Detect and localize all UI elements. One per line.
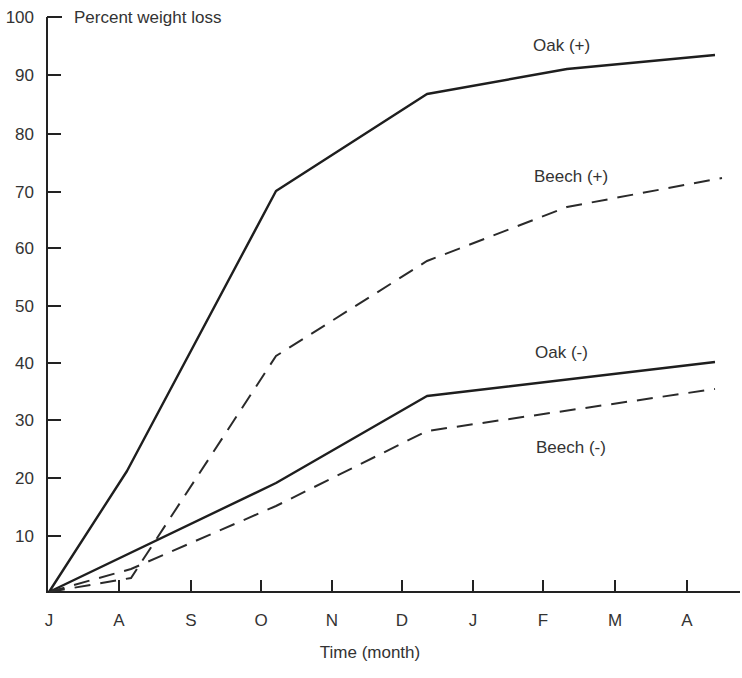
- x-tick-label: A: [113, 611, 125, 630]
- series-beech-minus: [49, 389, 715, 592]
- y-tick-label: 10: [15, 527, 34, 546]
- x-tick-label: S: [185, 611, 196, 630]
- series-oak-plus: [49, 55, 715, 592]
- series-label-beech-minus: Beech (-): [536, 438, 606, 457]
- y-tick-label: 30: [15, 411, 34, 430]
- series-beech-plus: [49, 178, 722, 592]
- x-tick-label: N: [326, 611, 338, 630]
- series-oak-minus: [49, 362, 715, 592]
- x-tick-label: M: [608, 611, 622, 630]
- x-tick-label: D: [396, 611, 408, 630]
- y-tick-label: 90: [15, 66, 34, 85]
- line-chart: 100 90 80 70 60 50 40 30 20 10 Percent w…: [0, 0, 742, 678]
- y-axis-title: Percent weight loss: [74, 8, 221, 27]
- y-axis: [47, 17, 62, 593]
- x-tick-label: F: [538, 611, 548, 630]
- series-label-oak-minus: Oak (-): [535, 343, 588, 362]
- x-axis-title: Time (month): [320, 643, 420, 662]
- series-label-oak-plus: Oak (+): [533, 36, 590, 55]
- y-tick-labels: 100 90 80 70 60 50 40 30 20 10: [6, 8, 34, 546]
- y-tick-label: 80: [15, 125, 34, 144]
- y-tick-label: 70: [15, 183, 34, 202]
- x-tick-label: J: [469, 611, 478, 630]
- x-tick-label: A: [681, 611, 693, 630]
- y-tick-label: 60: [15, 239, 34, 258]
- x-tick-label: O: [254, 611, 267, 630]
- y-tick-label: 50: [15, 297, 34, 316]
- series-label-beech-plus: Beech (+): [534, 167, 608, 186]
- y-tick-label: 40: [15, 354, 34, 373]
- x-tick-labels: J A S O N D J F M A: [45, 611, 694, 630]
- x-tick-label: J: [45, 611, 54, 630]
- x-axis: [46, 580, 740, 592]
- y-tick-label: 100: [6, 8, 34, 27]
- y-tick-label: 20: [15, 469, 34, 488]
